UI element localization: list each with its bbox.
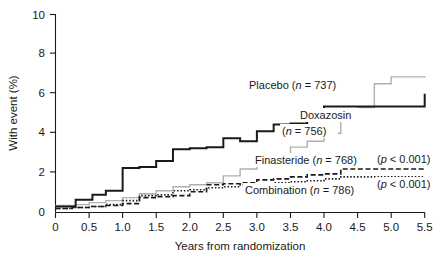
y-tick-label-4: 4: [39, 126, 46, 138]
y-axis-title: With event (%): [7, 75, 19, 151]
x-tick-label-5-0: 5.0: [383, 221, 399, 233]
x-tick-label-1-5: 1.5: [148, 221, 164, 233]
x-tick-label-4-5: 4.5: [350, 221, 366, 233]
y-tick-label-2: 2: [39, 166, 45, 178]
x-tick-label-4-0: 4.0: [316, 221, 332, 233]
label-placebo-suffix: = 737): [302, 79, 337, 91]
cumulative-incidence-figure: 10 8 6 4 2 0 With event (%) 0 0.5 1.0: [0, 0, 441, 257]
label-doxazosin-suffix: = 756): [292, 125, 327, 137]
pvalue-combination-suffix: < 0.001): [387, 178, 431, 190]
x-tick-label-2-0: 2.0: [182, 221, 198, 233]
y-tick-label-0: 0: [39, 206, 45, 218]
label-combination-suffix: = 786): [320, 184, 355, 196]
y-tick-label-6: 6: [39, 87, 45, 99]
label-placebo-text: Placebo (n = 737): [249, 79, 336, 91]
label-placebo-prefix: Placebo (: [249, 79, 296, 91]
label-finasteride: Finasteride (n = 768): [253, 153, 375, 167]
pvalue-finasteride-p: p: [380, 153, 387, 165]
x-axis: 0 0.5 1.0 1.5 2.0 2.5 3.0 3.5 4.0 4.5 5.…: [52, 213, 432, 253]
y-axis: 10 8 6 4 2 0 With event (%): [7, 9, 56, 218]
y-tick-label-10: 10: [32, 9, 45, 21]
label-placebo: Placebo (n = 737): [247, 78, 351, 92]
x-tick-label-3-0: 3.0: [249, 221, 265, 233]
x-tick-label-5-5: 5.5: [417, 221, 433, 233]
x-tick-label-0-5: 0.5: [81, 221, 97, 233]
x-tick-label-3-5: 3.5: [283, 221, 299, 233]
x-axis-title: Years from randomization: [175, 240, 306, 252]
label-finasteride-suffix: = 768): [322, 154, 357, 166]
y-tick-label-8: 8: [39, 47, 45, 59]
pvalue-finasteride-suffix: < 0.001): [387, 153, 431, 165]
label-combination: Combination (n = 786): [243, 183, 375, 197]
pvalue-combination-p: p: [380, 178, 387, 190]
x-tick-label-0: 0: [52, 221, 58, 233]
label-combination-text: Combination (n = 786): [245, 184, 354, 196]
pvalue-combination: (p < 0.001): [375, 177, 441, 191]
pvalue-finasteride: (p < 0.001): [375, 152, 441, 166]
label-finasteride-prefix: Finasteride (: [255, 154, 316, 166]
label-doxazosin-n-text: (n = 756): [282, 125, 326, 137]
pvalue-finasteride-text: (p < 0.001): [377, 153, 431, 165]
label-combination-prefix: Combination (: [245, 184, 314, 196]
chart-canvas: 10 8 6 4 2 0 With event (%) 0 0.5 1.0: [0, 0, 441, 257]
x-tick-label-2-5: 2.5: [215, 221, 231, 233]
label-finasteride-text: Finasteride (n = 768): [255, 154, 357, 166]
pvalue-combination-text: (p < 0.001): [377, 178, 431, 190]
x-tick-label-1-0: 1.0: [115, 221, 131, 233]
label-doxazosin-text: Doxazosin: [300, 109, 351, 121]
